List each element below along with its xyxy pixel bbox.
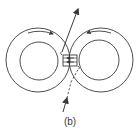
- toroid-diagram: [0, 0, 140, 132]
- current-wire: [62, 9, 79, 112]
- wire-upper-arrow-icon: [62, 9, 78, 52]
- figure-caption: (b): [0, 116, 140, 127]
- left-ring: [6, 28, 70, 92]
- right-ring: [69, 28, 133, 92]
- left-flux-arrow-icon: [28, 31, 53, 34]
- wire-lower-arrow-icon: [63, 98, 67, 112]
- right-flux-arrow-icon: [87, 31, 111, 33]
